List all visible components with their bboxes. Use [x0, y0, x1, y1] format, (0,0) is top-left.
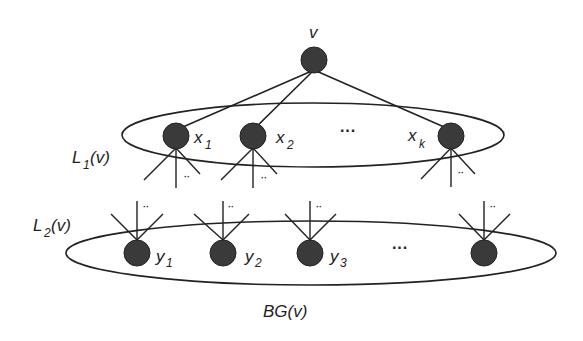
svg-text:2: 2: [286, 138, 294, 152]
svg-text:L: L: [33, 216, 42, 235]
layer1-ellipsis: ···: [340, 122, 356, 139]
edge-dots: ··: [458, 168, 464, 178]
svg-text:x: x: [193, 128, 203, 147]
node-x2-label: x 2: [275, 128, 294, 152]
layer1-label: L 1 (v): [72, 148, 110, 172]
node-y2: [210, 240, 236, 266]
svg-text:k: k: [419, 137, 426, 151]
root-label: v: [309, 23, 319, 42]
svg-text:(v): (v): [51, 216, 71, 235]
node-y-last: [471, 240, 497, 266]
edge-dots: ··: [261, 173, 267, 183]
edge-dots: ··: [490, 202, 496, 212]
root-edges: [176, 70, 451, 130]
node-x2: [240, 123, 266, 149]
node-v: [301, 47, 327, 73]
svg-text:3: 3: [340, 256, 347, 270]
svg-text:(v): (v): [90, 148, 110, 167]
layer2-label: L 2 (v): [33, 216, 71, 240]
svg-text:1: 1: [166, 256, 173, 270]
svg-text:2: 2: [43, 226, 51, 240]
node-xk-label: x k: [407, 126, 426, 151]
diagram-canvas: ·· ·· ·· ·· ·· ·· ·· v x 1 x 2 ··· x k L…: [0, 0, 583, 341]
node-y3: [297, 240, 323, 266]
edge-dots: ··: [316, 202, 322, 212]
edge-dots: ··: [228, 202, 234, 212]
node-y1: [124, 240, 150, 266]
layer2-ellipsis: ···: [392, 239, 408, 256]
node-x1: [163, 123, 189, 149]
layer1-fanout-edges: [144, 148, 475, 188]
diagram-caption: BG(v): [263, 302, 307, 321]
svg-text:y: y: [244, 247, 255, 266]
svg-text:y: y: [155, 247, 166, 266]
node-y1-label: y 1: [155, 247, 173, 270]
node-x1-label: x 1: [193, 128, 212, 152]
svg-text:x: x: [275, 128, 285, 147]
edge-ellipsis-marks: ·· ·· ·· ·· ·· ·· ··: [143, 168, 496, 212]
svg-text:x: x: [407, 126, 417, 145]
svg-text:1: 1: [83, 158, 90, 172]
svg-text:2: 2: [254, 256, 262, 270]
layered-graph-diagram: ·· ·· ·· ·· ·· ·· ·· v x 1 x 2 ··· x k L…: [0, 0, 583, 341]
edge-dots: ··: [143, 202, 149, 212]
layer2-fanin-edges: [111, 201, 510, 240]
node-xk: [438, 123, 464, 149]
node-y3-label: y 3: [329, 247, 347, 270]
svg-text:y: y: [329, 247, 340, 266]
node-y2-label: y 2: [244, 247, 262, 270]
svg-text:L: L: [72, 148, 81, 167]
edge-dots: ··: [184, 172, 190, 182]
svg-text:1: 1: [205, 138, 212, 152]
